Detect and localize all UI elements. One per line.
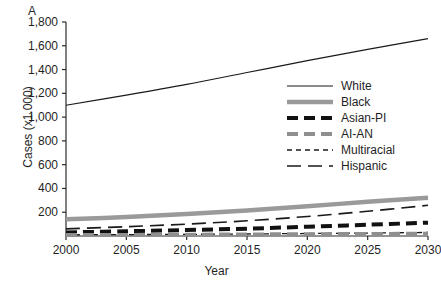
chart-legend: WhiteBlackAsian-PIAI-ANMultiracialHispan…	[286, 78, 395, 174]
legend-swatch-icon	[286, 160, 334, 172]
legend-label: Hispanic	[341, 158, 387, 174]
legend-label: AI-AN	[341, 126, 373, 142]
legend-item[interactable]: Hispanic	[286, 158, 395, 174]
legend-item[interactable]: Multiracial	[286, 142, 395, 158]
legend-swatch-icon	[286, 80, 334, 92]
legend-item[interactable]: White	[286, 78, 395, 94]
legend-swatch-icon	[286, 144, 334, 156]
legend-label: Asian-PI	[341, 110, 386, 126]
legend-item[interactable]: AI-AN	[286, 126, 395, 142]
legend-label: White	[341, 78, 372, 94]
legend-swatch-icon	[286, 128, 334, 140]
legend-label: Multiracial	[341, 142, 395, 158]
legend-swatch-icon	[286, 96, 334, 108]
legend-item[interactable]: Asian-PI	[286, 110, 395, 126]
series-line	[66, 198, 428, 220]
legend-label: Black	[341, 94, 370, 110]
legend-item[interactable]: Black	[286, 94, 395, 110]
legend-swatch-icon	[286, 112, 334, 124]
